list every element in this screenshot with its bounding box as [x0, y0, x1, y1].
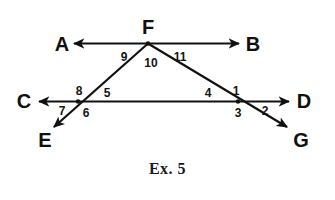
angle-number-6: 6 [83, 107, 90, 119]
angle-number-2: 2 [262, 105, 269, 117]
vertex-point-right-intersection [236, 99, 240, 103]
point-label-a: A [55, 34, 69, 54]
point-label-e: E [38, 130, 51, 150]
angle-number-3: 3 [235, 107, 242, 119]
ray-fe [54, 44, 148, 128]
angle-number-8: 8 [76, 85, 83, 97]
angle-number-10: 10 [144, 57, 157, 69]
angle-number-11: 11 [174, 51, 187, 63]
point-label-c: C [17, 91, 31, 111]
angle-number-9: 9 [121, 51, 128, 63]
geometry-figure: A B C D E F G 9 10 11 8 5 7 6 4 1 3 2 Ex… [0, 0, 335, 200]
angle-number-7: 7 [59, 105, 66, 117]
point-label-d: D [297, 91, 311, 111]
figure-caption: Ex. 5 [0, 160, 335, 178]
point-label-f: F [142, 17, 154, 37]
angle-number-4: 4 [205, 87, 212, 99]
angle-number-5: 5 [104, 87, 111, 99]
point-label-g: G [293, 130, 309, 150]
ray-fe-group [54, 44, 148, 128]
point-label-b: B [246, 34, 260, 54]
vertex-point-f [146, 41, 151, 46]
angle-number-1: 1 [233, 85, 240, 97]
vertex-point-left-intersection [76, 99, 80, 103]
